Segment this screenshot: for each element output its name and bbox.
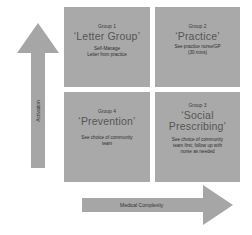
group-title: ‘Social Prescribing’ (159, 110, 236, 132)
group-description: See choice of community team first; foll… (159, 137, 236, 155)
group-description: See choice of community team (68, 135, 146, 147)
quadrant-group-1: Group 1 ‘Letter Group’ Self-Manage Lette… (64, 7, 150, 87)
vertical-axis-label: Activation (35, 95, 41, 127)
group-title: ‘Letter Group’ (68, 31, 146, 42)
title-line: Prescribing’ (159, 121, 236, 132)
group-title: ‘Prevention’ (68, 116, 146, 127)
group-title: ‘Practice’ (159, 31, 236, 42)
group-label: Group 2 (159, 23, 236, 29)
quadrant-group-4: Group 4 ‘Prevention’ See choice of commu… (64, 92, 150, 182)
group-description: See practice nurse/GP (30 mins) (159, 44, 236, 56)
group-label: Group 3 (159, 102, 236, 108)
group-description: Self-Manage Letter from practice (68, 46, 146, 58)
horizontal-axis-label: Medical Complexity (120, 202, 163, 208)
description-line: (30 mins) (159, 50, 236, 56)
description-line: Letter from practice (68, 52, 146, 58)
group-label: Group 4 (68, 108, 146, 114)
group-label: Group 1 (68, 23, 146, 29)
description-line: team (68, 141, 146, 147)
description-line: nurse as needed (159, 149, 236, 155)
quadrant-group-3: Group 3 ‘Social Prescribing’ See choice … (155, 92, 240, 182)
quadrant-group-2: Group 2 ‘Practice’ See practice nurse/GP… (155, 7, 240, 87)
